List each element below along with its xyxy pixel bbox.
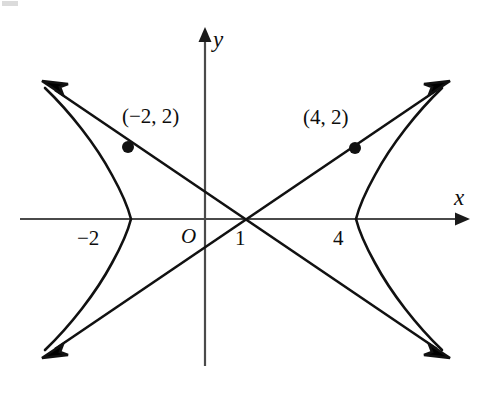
y-axis-label: y: [213, 28, 223, 51]
point-marker-4-2: [349, 142, 361, 154]
x-tick-label-minus2: −2: [77, 228, 99, 249]
x-tick-label-1: 1: [235, 228, 246, 249]
x-tick-label-4: 4: [333, 228, 344, 249]
x-axis-arrowhead: [455, 213, 470, 226]
point-marker-minus2-2: [122, 141, 134, 153]
marked-points-group: [122, 141, 361, 154]
point-label-4-2: (4, 2): [303, 107, 349, 128]
graph-canvas: [0, 0, 489, 394]
axes-group: [20, 27, 470, 366]
asymptote-positive-slope-arrow-lower-left: [42, 344, 68, 358]
origin-label: O: [181, 226, 196, 247]
x-axis-label: x: [454, 186, 464, 209]
hyperbola-figure: y x O −2 1 4 (−2, 2) (4, 2): [0, 0, 489, 394]
y-axis-arrowhead: [199, 27, 212, 42]
point-label-minus2-2: (−2, 2): [122, 106, 179, 127]
